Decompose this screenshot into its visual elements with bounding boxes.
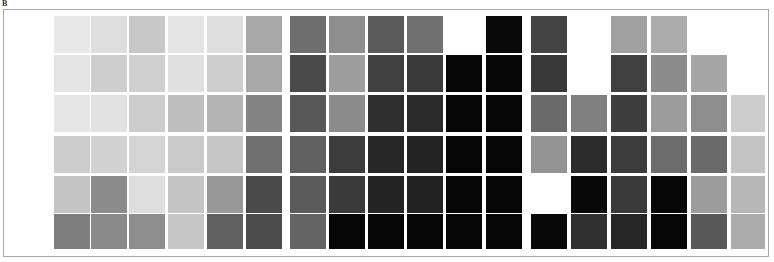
heatmap-cell [129, 16, 165, 53]
heatmap-cell [290, 16, 326, 53]
heatmap-cell [446, 214, 482, 249]
heatmap-cell [651, 176, 687, 213]
heatmap-cell [168, 95, 204, 132]
panel-label: B [2, 0, 7, 8]
heatmap-cell [407, 136, 443, 173]
heatmap-cell [407, 55, 443, 92]
heatmap-cell [54, 95, 90, 132]
heatmap-cell [54, 136, 90, 173]
heatmap-cell [651, 95, 687, 132]
heatmap-cell [54, 16, 90, 53]
heatmap-cell [531, 55, 567, 92]
heatmap-cell [486, 136, 522, 173]
heatmap-cell [531, 95, 567, 132]
heatmap-cell [486, 95, 522, 132]
heatmap-cell [91, 214, 127, 249]
heatmap-cell [611, 16, 647, 53]
heatmap-cell [611, 136, 647, 173]
heatmap-cell [651, 214, 687, 249]
heatmap-cell [651, 136, 687, 173]
heatmap-cell [407, 95, 443, 132]
heatmap-cell [329, 176, 365, 213]
heatmap-cell [91, 176, 127, 213]
heatmap-cell [168, 176, 204, 213]
heatmap-cell [571, 176, 607, 213]
heatmap-cell [611, 55, 647, 92]
heatmap-cell [129, 95, 165, 132]
heatmap-cell [329, 95, 365, 132]
heatmap-cell [407, 214, 443, 249]
heatmap-cell [486, 214, 522, 249]
heatmap-cell [290, 176, 326, 213]
heatmap-cell [91, 55, 127, 92]
heatmap-cell [368, 95, 404, 132]
heatmap-cell [54, 55, 90, 92]
heatmap-cell [446, 95, 482, 132]
heatmap-cell [731, 176, 765, 213]
heatmap-cell [571, 214, 607, 249]
heatmap-cell [531, 214, 567, 249]
heatmap-cell [246, 136, 282, 173]
heatmap-cell [290, 95, 326, 132]
heatmap-cell [168, 214, 204, 249]
heatmap-cell [246, 214, 282, 249]
heatmap-cell [329, 214, 365, 249]
heatmap-cell [486, 55, 522, 92]
heatmap-cell [91, 136, 127, 173]
heatmap-cell [368, 214, 404, 249]
heatmap-cell [368, 176, 404, 213]
heatmap-cell [651, 16, 687, 53]
heatmap-cell [168, 136, 204, 173]
heatmap-cell [207, 95, 243, 132]
heatmap-cell [691, 55, 727, 92]
heatmap-cell [329, 55, 365, 92]
heatmap-cell [207, 16, 243, 53]
heatmap-cell [246, 176, 282, 213]
heatmap-cell [531, 16, 567, 53]
heatmap-cell [91, 95, 127, 132]
heatmap-cell [329, 136, 365, 173]
heatmap-cell [368, 55, 404, 92]
heatmap-cell [691, 136, 727, 173]
heatmap-cell [329, 16, 365, 53]
heatmap-cell [731, 214, 765, 249]
heatmap-cell [368, 136, 404, 173]
heatmap-cell [290, 214, 326, 249]
heatmap-cell [168, 16, 204, 53]
heatmap-cell [611, 95, 647, 132]
heatmap-cell [407, 176, 443, 213]
heatmap-cell [611, 176, 647, 213]
heatmap-cell [129, 136, 165, 173]
heatmap-cell [486, 16, 522, 53]
heatmap-cell [486, 176, 522, 213]
heatmap-cell [446, 55, 482, 92]
heatmap-cell [207, 214, 243, 249]
heatmap-cell [731, 95, 765, 132]
heatmap-cell [691, 95, 727, 132]
heatmap-cell [129, 55, 165, 92]
heatmap-cell [207, 176, 243, 213]
heatmap-cell [129, 214, 165, 249]
heatmap-cell [207, 136, 243, 173]
heatmap-cell [611, 214, 647, 249]
heatmap-cell [571, 136, 607, 173]
heatmap-cell [129, 176, 165, 213]
heatmap-cell [407, 16, 443, 53]
heatmap-cell [651, 55, 687, 92]
heatmap-cell [54, 176, 90, 213]
heatmap-cell [531, 136, 567, 173]
heatmap-cell [368, 16, 404, 53]
heatmap-cell [691, 176, 727, 213]
heatmap-cell [246, 95, 282, 132]
heatmap-cell [691, 214, 727, 249]
heatmap-cell [446, 176, 482, 213]
heatmap-cell [446, 136, 482, 173]
heatmap-cell [246, 16, 282, 53]
heatmap-cell [91, 16, 127, 53]
heatmap-cell [246, 55, 282, 92]
heatmap-cell [207, 55, 243, 92]
heatmap-cell [290, 136, 326, 173]
heatmap-cell [54, 214, 90, 249]
heatmap-cell [731, 136, 765, 173]
heatmap-cell [168, 55, 204, 92]
